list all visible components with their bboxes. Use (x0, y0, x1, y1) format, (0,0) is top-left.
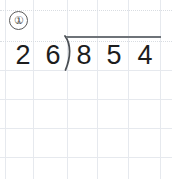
gridline-horizontal (0, 128, 172, 129)
dividend-digit-1: 8 (72, 40, 96, 70)
gridline-horizontal (0, 99, 172, 100)
gridline-horizontal (0, 157, 172, 158)
gridline-vertical (67, 0, 68, 179)
dividend-digit-3: 4 (133, 40, 157, 70)
worksheet-canvas: ① 2 6 8 5 4 (0, 0, 172, 179)
gridline-vertical (128, 0, 129, 179)
problem-number-badge: ① (9, 11, 28, 30)
gridline-horizontal (0, 70, 172, 71)
gridline-vertical (5, 0, 6, 179)
dividend-digit-2: 5 (102, 40, 126, 70)
gridline-vertical (160, 0, 161, 179)
gridline-horizontal (0, 10, 172, 11)
division-vinculum (66, 36, 161, 38)
gridline-vertical (33, 0, 34, 179)
divisor-digit-1: 2 (11, 40, 35, 70)
gridline-vertical (97, 0, 98, 179)
